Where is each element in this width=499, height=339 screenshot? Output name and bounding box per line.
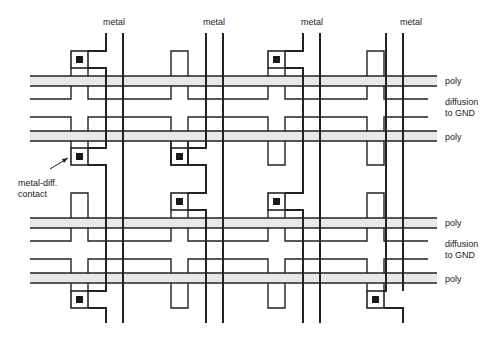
poly-label-4: poly (445, 274, 462, 284)
poly-band-3 (30, 218, 437, 228)
poly-band-1 (30, 76, 437, 86)
poly-label-3: poly (445, 218, 462, 228)
metal-label-2: metal (203, 17, 225, 27)
diffusion-label-1a: diffusion (445, 97, 478, 107)
contact-square (273, 56, 280, 63)
diffusion-gnd-bottom (30, 228, 428, 273)
poly-label-2: poly (445, 132, 462, 142)
annotation-label-1: metal-diff. (18, 178, 57, 188)
poly-band-2 (30, 131, 437, 141)
contact-square (76, 296, 83, 303)
metal-label-1: metal (103, 17, 125, 27)
diffusion-gnd-top (30, 86, 428, 131)
layout-diagram (0, 0, 499, 339)
annotation-label-2: contact (18, 189, 47, 199)
metal-label-4: metal (400, 17, 422, 27)
diffusion-label-1b: to GND (445, 108, 475, 118)
diffusion-label-2b: to GND (445, 250, 475, 260)
poly-label-1: poly (445, 76, 462, 86)
contact-square (76, 56, 83, 63)
diffusion-label-2a: diffusion (445, 239, 478, 249)
contact-square (176, 198, 183, 205)
metal-label-3: metal (301, 17, 323, 27)
contact-square (273, 198, 280, 205)
metal-diff-contacts (76, 56, 379, 303)
contact-square (76, 153, 83, 160)
poly-band-4 (30, 273, 437, 283)
contact-square (176, 153, 183, 160)
contact-square (372, 296, 379, 303)
